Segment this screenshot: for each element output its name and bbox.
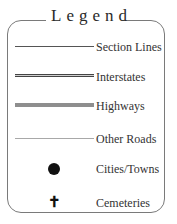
legend-item-highways: Highways — [0, 98, 177, 114]
legend-item-label: Section Lines — [96, 39, 162, 55]
legend-item-label: Cities/Towns — [96, 161, 159, 177]
legend-item-section-lines: Section Lines — [0, 39, 177, 55]
legend-item-label: Other Roads — [96, 131, 156, 147]
legend-item-cemeteries: ✝ Cemeteries — [0, 195, 177, 211]
legend-item-cities-towns: Cities/Towns — [0, 161, 177, 177]
cemetery-cross-icon: ✝ — [48, 193, 60, 211]
legend-title: Legend — [46, 6, 126, 26]
legend-item-interstates: Interstates — [0, 69, 177, 85]
section-line-icon — [15, 46, 94, 47]
legend-item-label: Cemeteries — [96, 195, 150, 211]
interstate-line-icon — [15, 74, 94, 77]
legend-item-other-roads: Other Roads — [0, 131, 177, 147]
legend-item-label: Interstates — [96, 69, 145, 85]
highway-line-icon — [15, 103, 94, 107]
city-dot-icon — [48, 163, 60, 175]
legend-item-label: Highways — [96, 98, 145, 114]
other-road-line-icon — [15, 138, 94, 139]
